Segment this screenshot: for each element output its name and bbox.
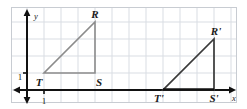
vertex-label-R: R [90, 8, 98, 20]
x-axis-label: x [231, 93, 236, 103]
vertex-label-T-prime: T' [154, 92, 164, 104]
vertex-label-S: S [96, 76, 102, 88]
translation-diagram: R T S R' T' S' y x 1 1 [0, 0, 247, 109]
coordinate-grid-figure: R T S R' T' S' y x 1 1 [0, 0, 247, 109]
y-axis-label: y [33, 11, 38, 21]
vertex-label-S-prime: S' [209, 92, 218, 104]
x-axis-unit-label: 1 [42, 96, 47, 106]
vertex-label-R-prime: R' [210, 25, 221, 37]
y-axis-unit-label: 1 [18, 72, 23, 82]
